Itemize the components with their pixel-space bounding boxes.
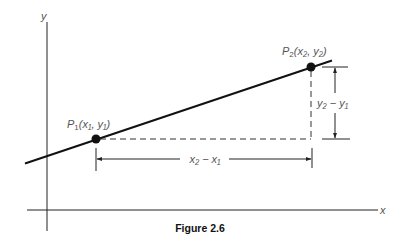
x-axis-label: x (379, 204, 386, 216)
point-p1-label: P1(x₁, y₁) (67, 118, 111, 132)
slope-diagram: y x P1(x₁, y₁) P2(x₂, y₂) x₂ − x₁ y₂ − y… (0, 0, 405, 245)
p1-coords: (x₁, y₁) (79, 118, 111, 130)
y-axis-label: y (40, 10, 48, 22)
figure-caption: Figure 2.6 (175, 222, 225, 234)
point-p1 (92, 135, 101, 144)
dim-x-label: x₂ − x₁ (188, 153, 221, 165)
point-p2-label: P2(x₂, y₂) (282, 45, 327, 59)
dim-y-label: y₂ − y₁ (316, 97, 349, 109)
p2-coords: (x₂, y₂) (294, 45, 327, 57)
line-through-points (25, 61, 332, 164)
point-p2 (307, 63, 316, 72)
